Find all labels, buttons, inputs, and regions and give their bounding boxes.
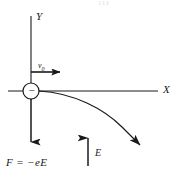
x-axis-label: X [163,84,170,95]
trajectory-curve [39,91,140,145]
initial-velocity-label: v0 [38,62,45,72]
initial-velocity-subscript: 0 [42,66,45,72]
electric-field-label: E [95,148,101,158]
physics-figure: 111 − [0,0,181,179]
force-equation-label: F = −eE [6,157,47,168]
y-axis-label: Y [36,11,42,22]
electron-charge-sign: − [26,84,37,96]
